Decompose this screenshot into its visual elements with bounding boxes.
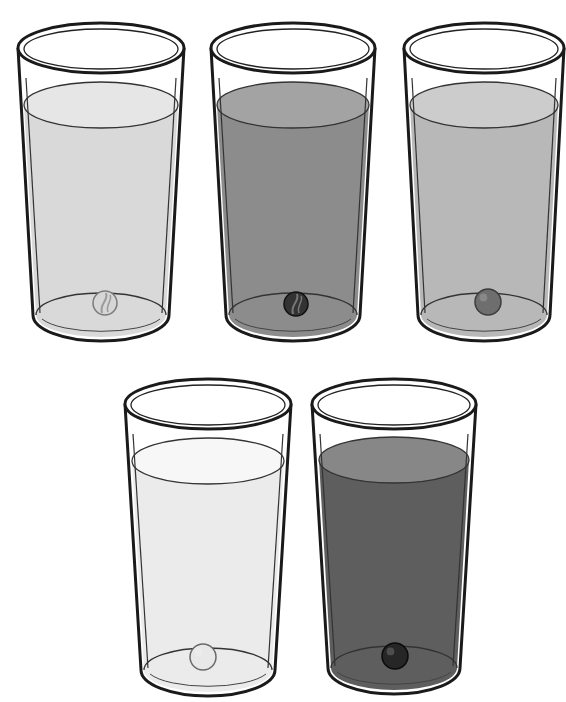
marble-highlight: [480, 294, 488, 302]
liquid-surface: [217, 82, 369, 128]
glasses-scene: [0, 0, 566, 702]
liquid-surface: [319, 437, 469, 483]
liquid-surface: [410, 82, 558, 128]
marble-icon: [382, 643, 408, 669]
marble-icon: [284, 292, 308, 316]
glass-5: [312, 379, 476, 694]
marble-icon: [190, 644, 216, 670]
marble-highlight: [195, 649, 203, 657]
glass-rim: [312, 379, 476, 429]
glass-rim: [404, 23, 564, 73]
liquid-surface: [24, 82, 178, 128]
glass-3: [404, 23, 564, 341]
glass-1: [18, 23, 184, 341]
glasses-illustration: [0, 0, 566, 702]
liquid-surface: [132, 438, 284, 484]
marble-icon: [93, 291, 117, 315]
marble-icon: [475, 289, 501, 315]
glass-rim: [125, 379, 291, 429]
glass-rim: [211, 23, 375, 73]
marble-highlight: [387, 648, 395, 656]
glass-rim: [18, 23, 184, 73]
glass-2: [211, 23, 375, 341]
glass-4: [125, 379, 291, 696]
